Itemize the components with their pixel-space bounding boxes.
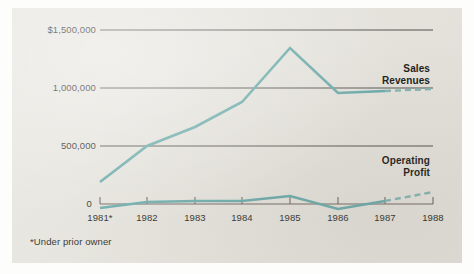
chart-footnote: *Under prior owner xyxy=(30,236,112,247)
series-label-operating-profit: Operating Profit xyxy=(308,155,430,178)
series-line-operating-profit-projected xyxy=(385,192,433,201)
x-axis-label-1982: 1982 xyxy=(121,212,173,223)
y-axis-label-1500000: $1,500,000 xyxy=(12,24,96,35)
x-axis-label-1985: 1985 xyxy=(264,212,316,223)
x-axis-label-1981: 1981* xyxy=(74,212,126,223)
series-label-sales-revenues: Sales Revenues xyxy=(312,63,430,86)
x-axis-label-1984: 1984 xyxy=(216,212,268,223)
series-line-sales-revenues-projected xyxy=(385,89,433,91)
line-chart-plot xyxy=(12,8,462,263)
x-axis-label-1983: 1983 xyxy=(169,212,221,223)
x-axis-label-1986: 1986 xyxy=(312,212,364,223)
series-label-sales-revenues-line2: Revenues xyxy=(312,75,430,87)
y-axis-label-500000: 500,000 xyxy=(12,140,96,151)
y-axis-label-1000000: 1,000,000 xyxy=(12,82,96,93)
series-label-operating-profit-line2: Profit xyxy=(308,167,430,179)
series-label-operating-profit-line1: Operating xyxy=(308,155,430,167)
chart-figure: $1,500,000 1,000,000 500,000 0 1981* 198… xyxy=(0,0,474,274)
y-axis-label-0: 0 xyxy=(12,198,92,209)
x-axis-label-1987: 1987 xyxy=(359,212,411,223)
series-label-sales-revenues-line1: Sales xyxy=(312,63,430,75)
x-axis-label-1988: 1988 xyxy=(407,212,459,223)
chart-panel: $1,500,000 1,000,000 500,000 0 1981* 198… xyxy=(12,8,462,263)
gridlines xyxy=(100,30,433,146)
